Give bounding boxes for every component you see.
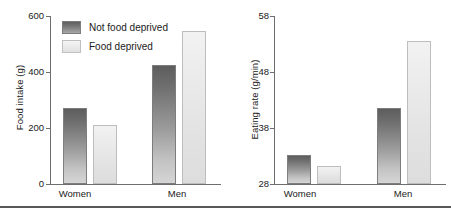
plot-area-right	[274, 16, 445, 184]
x-axis-line-right	[274, 184, 446, 185]
chart-panel-eating-rate: Eating rate (g/min) 58 48 38 28 Women Me…	[225, 0, 451, 210]
bar-left-men-not-deprived	[152, 65, 176, 184]
y-tick-label-right-58: 58	[245, 11, 269, 21]
bar-right-women-not-deprived	[287, 155, 311, 184]
legend: Not food deprived Food deprived	[62, 19, 168, 57]
bar-left-men-deprived	[182, 31, 206, 184]
legend-item-food-deprived: Food deprived	[62, 38, 168, 55]
bar-right-women-deprived	[317, 166, 341, 184]
y-tick-label-right-38: 38	[245, 123, 269, 133]
y-tickmark-right-28	[270, 184, 274, 185]
figure-two-panel-bar-charts: Food intake (g) 600 400 200 0 Women Men …	[0, 0, 451, 216]
x-tick-label-right-women: Women	[245, 188, 355, 199]
y-tick-label-left-400: 400	[14, 67, 44, 77]
legend-item-not-food-deprived: Not food deprived	[62, 19, 168, 36]
legend-label-food-deprived: Food deprived	[89, 41, 153, 52]
footer-divider-rule	[0, 206, 451, 208]
x-tick-label-right-men: Men	[353, 188, 451, 199]
bar-right-men-not-deprived	[377, 108, 401, 184]
bar-left-women-deprived	[93, 125, 117, 184]
legend-swatch-light-icon	[62, 40, 81, 53]
chart-panel-food-intake: Food intake (g) 600 400 200 0 Women Men …	[0, 0, 226, 210]
y-axis-title-left: Food intake (g)	[14, 38, 25, 158]
x-tick-label-left-women: Women	[20, 188, 130, 199]
y-tick-label-right-48: 48	[245, 67, 269, 77]
legend-swatch-dark-icon	[62, 21, 81, 34]
legend-label-not-food-deprived: Not food deprived	[89, 22, 168, 33]
x-axis-line-left	[50, 184, 221, 185]
x-tick-label-left-men: Men	[127, 188, 227, 199]
y-tick-label-left-600: 600	[14, 11, 44, 21]
y-axis-title-right: Eating rate (g/min)	[249, 40, 260, 160]
y-tick-label-left-200: 200	[14, 123, 44, 133]
bar-right-men-deprived	[407, 41, 431, 184]
y-tickmark-left-0	[46, 184, 50, 185]
bar-left-women-not-deprived	[63, 108, 87, 184]
